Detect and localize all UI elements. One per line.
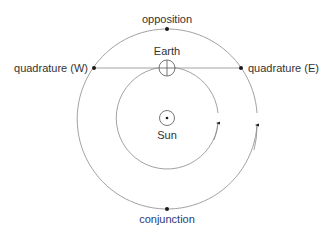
quadrature-west-dot xyxy=(92,66,96,70)
quadrature-east-dot xyxy=(239,66,243,70)
conjunction-dot xyxy=(165,207,169,211)
quadrature-west-label: quadrature (W) xyxy=(14,62,88,74)
opposition-label: opposition xyxy=(142,13,192,25)
conjunction-label: conjunction xyxy=(139,213,195,225)
earth-symbol-icon xyxy=(159,60,175,76)
opposition-dot xyxy=(165,27,169,31)
earth-label: Earth xyxy=(154,45,180,57)
inner-orbit-arrow xyxy=(214,123,218,140)
sun-label: Sun xyxy=(157,129,177,141)
quadrature-east-label: quadrature (E) xyxy=(248,62,319,74)
planetary-configuration-diagram: opposition quadrature (W) quadrature (E)… xyxy=(0,0,327,238)
sun-symbol-icon xyxy=(160,111,175,126)
